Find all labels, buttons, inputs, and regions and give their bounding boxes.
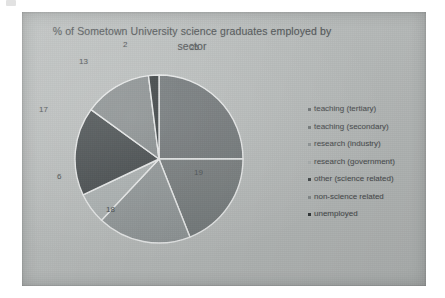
scan-artifact	[6, 0, 16, 6]
pie-svg	[74, 74, 244, 244]
legend-item[interactable]: research (government)	[308, 157, 426, 167]
legend-swatch-icon	[308, 161, 311, 164]
legend-item[interactable]: teaching (secondary)	[308, 122, 426, 132]
legend-swatch-icon	[308, 126, 311, 129]
data-label-unemployed: 2	[123, 40, 127, 49]
pie-slice	[159, 75, 243, 159]
legend-item-label: unemployed	[314, 209, 358, 219]
chart-title-line-1: % of Sometown University science graduat…	[53, 25, 332, 37]
legend-item-label: teaching (tertiary)	[314, 104, 376, 114]
legend-item-label: research (industry)	[314, 139, 381, 149]
pie-slices	[75, 75, 243, 243]
data-label-teaching-secondary: 19	[194, 168, 203, 177]
data-label-research-government: 6	[57, 172, 61, 181]
legend-item[interactable]: unemployed	[308, 209, 426, 219]
legend-item[interactable]: research (industry)	[308, 139, 426, 149]
data-label-teaching-tertiary: 25	[190, 43, 199, 52]
legend-swatch-icon	[308, 108, 311, 111]
legend-item-label: teaching (secondary)	[314, 122, 389, 132]
legend-swatch-icon	[308, 213, 311, 216]
pie-plot-area	[74, 74, 244, 244]
legend-item[interactable]: other (science related)	[308, 174, 426, 184]
legend-swatch-icon	[308, 178, 311, 181]
pie-chart-figure: % of Sometown University science graduat…	[22, 12, 426, 286]
legend-swatch-icon	[308, 196, 311, 199]
legend-item-label: other (science related)	[314, 174, 394, 184]
legend-swatch-icon	[308, 143, 311, 146]
chart-legend: teaching (tertiary)teaching (secondary)r…	[308, 104, 426, 227]
legend-item[interactable]: non-science related	[308, 192, 426, 202]
legend-item[interactable]: teaching (tertiary)	[308, 104, 426, 114]
legend-item-label: research (government)	[314, 157, 395, 167]
legend-item-label: non-science related	[314, 192, 384, 202]
data-label-non-science-related: 13	[79, 57, 88, 66]
data-label-other-science-related: 17	[39, 105, 48, 114]
data-label-research-industry: 18	[106, 205, 115, 214]
